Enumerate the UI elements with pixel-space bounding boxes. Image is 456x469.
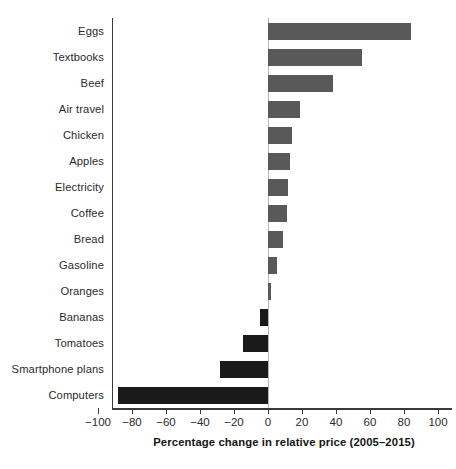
category-label: Textbooks <box>0 51 104 63</box>
bar <box>268 283 271 300</box>
category-label: Chicken <box>0 129 104 141</box>
x-axis-tick <box>234 408 235 414</box>
bar <box>268 23 411 40</box>
y-axis-line <box>112 18 113 408</box>
category-label: Smartphone plans <box>0 363 104 375</box>
x-axis-tick <box>166 408 167 414</box>
x-axis-line <box>112 408 452 410</box>
plot-area <box>112 18 452 408</box>
bar <box>260 309 269 326</box>
category-label: Computers <box>0 389 104 401</box>
category-label: Gasoline <box>0 259 104 271</box>
x-axis-tick <box>302 408 303 414</box>
category-label: Beef <box>0 77 104 89</box>
x-axis-tick <box>98 408 99 414</box>
category-label: Air travel <box>0 103 104 115</box>
bar <box>268 179 288 196</box>
category-label: Oranges <box>0 285 104 297</box>
bar <box>243 335 269 352</box>
category-label: Electricity <box>0 181 104 193</box>
x-axis-tick <box>404 408 405 414</box>
bar <box>220 361 268 378</box>
x-axis-tick <box>200 408 201 414</box>
x-axis-title: Percentage change in relative price (200… <box>112 436 456 448</box>
category-label: Bread <box>0 233 104 245</box>
x-axis-tick <box>370 408 371 414</box>
category-label: Apples <box>0 155 104 167</box>
bar <box>268 231 283 248</box>
category-label: Tomatoes <box>0 337 104 349</box>
x-axis-tick <box>132 408 133 414</box>
bar <box>118 387 268 404</box>
category-label: Bananas <box>0 311 104 323</box>
x-axis-tick <box>438 408 439 414</box>
x-axis-tick-label: 100 <box>418 416 456 428</box>
bar <box>268 101 300 118</box>
x-axis-tick <box>336 408 337 414</box>
x-axis-tick <box>268 408 269 414</box>
category-label: Eggs <box>0 25 104 37</box>
bar <box>268 49 362 66</box>
bar <box>268 257 277 274</box>
category-axis-labels: EggsTextbooksBeefAir travelChickenApples… <box>0 18 110 408</box>
bar <box>268 153 290 170</box>
bar <box>268 205 287 222</box>
bar <box>268 127 292 144</box>
bar <box>268 75 333 92</box>
category-label: Coffee <box>0 207 104 219</box>
bar-chart-figure: EggsTextbooksBeefAir travelChickenApples… <box>0 0 456 469</box>
